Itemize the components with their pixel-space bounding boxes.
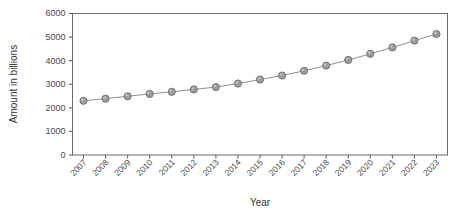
data-point-marker	[389, 44, 396, 51]
marker-circle	[190, 86, 197, 93]
marker-circle	[345, 56, 352, 63]
marker-highlight	[368, 52, 370, 54]
marker-highlight	[324, 63, 326, 65]
data-point-marker	[411, 37, 418, 44]
marker-highlight	[236, 81, 238, 83]
data-point-marker	[323, 62, 330, 69]
data-point-marker	[433, 30, 440, 37]
chart-canvas: 0100020003000400050006000 20072008200920…	[0, 0, 461, 214]
y-tick-label: 2000	[45, 103, 65, 113]
data-point-marker	[367, 50, 374, 57]
marker-circle	[256, 76, 263, 83]
data-point-marker	[168, 88, 175, 95]
y-tick-label: 5000	[45, 32, 65, 42]
marker-circle	[301, 67, 308, 74]
data-point-marker	[278, 72, 285, 79]
marker-circle	[389, 44, 396, 51]
plot-area-frame	[73, 14, 448, 156]
data-point-marker	[234, 80, 241, 87]
marker-circle	[234, 80, 241, 87]
marker-circle	[168, 88, 175, 95]
data-point-marker	[212, 83, 219, 90]
data-point-marker	[124, 93, 131, 100]
marker-circle	[212, 83, 219, 90]
y-tick-label: 4000	[45, 56, 65, 66]
y-tick-label: 1000	[45, 126, 65, 136]
data-point-marker	[345, 56, 352, 63]
marker-highlight	[81, 99, 83, 101]
marker-highlight	[170, 90, 172, 92]
marker-circle	[323, 62, 330, 69]
marker-highlight	[147, 92, 149, 94]
marker-circle	[411, 37, 418, 44]
marker-highlight	[302, 69, 304, 71]
y-tick-label: 6000	[45, 8, 65, 18]
marker-highlight	[412, 38, 414, 40]
marker-highlight	[258, 77, 260, 79]
marker-highlight	[103, 96, 105, 98]
y-axis-title: Amount in billions	[8, 45, 19, 123]
marker-highlight	[192, 87, 194, 89]
data-point-marker	[102, 95, 109, 102]
marker-circle	[102, 95, 109, 102]
marker-highlight	[280, 73, 282, 75]
marker-circle	[124, 93, 131, 100]
marker-circle	[278, 72, 285, 79]
marker-highlight	[346, 58, 348, 60]
data-point-marker	[146, 90, 153, 97]
marker-circle	[146, 90, 153, 97]
marker-circle	[433, 30, 440, 37]
data-point-marker	[190, 86, 197, 93]
y-tick-label: 0	[60, 150, 65, 160]
line-chart: 0100020003000400050006000 20072008200920…	[0, 0, 461, 214]
y-tick-label: 3000	[45, 79, 65, 89]
data-point-marker	[256, 76, 263, 83]
marker-highlight	[125, 94, 127, 96]
marker-highlight	[214, 85, 216, 87]
data-point-marker	[80, 97, 87, 104]
marker-highlight	[434, 32, 436, 34]
marker-highlight	[390, 45, 392, 47]
marker-circle	[367, 50, 374, 57]
data-point-marker	[301, 67, 308, 74]
marker-circle	[80, 97, 87, 104]
x-axis-title: Year	[250, 197, 271, 208]
